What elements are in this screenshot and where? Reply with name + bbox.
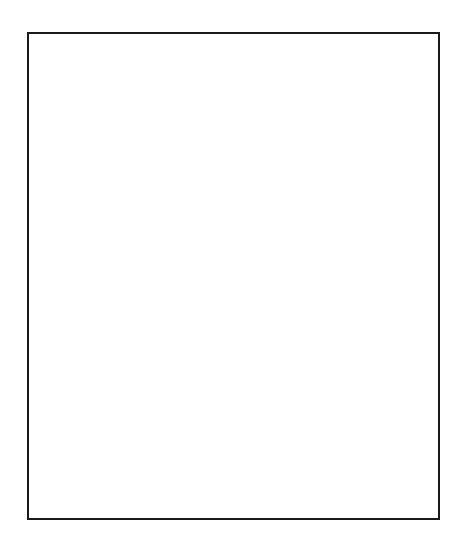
figure-root [0, 0, 468, 555]
figure-border [27, 32, 440, 520]
